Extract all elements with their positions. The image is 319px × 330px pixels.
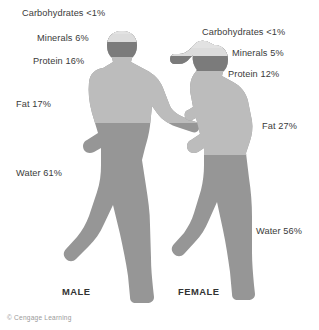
male-label-water: Water 61% [16,168,62,179]
female-label-fat: Fat 27% [262,121,297,132]
female-label-carbohydrates: Carbohydrates <1% [202,27,285,38]
female-label-minerals: Minerals 5% [232,48,284,59]
female-label-protein: Protein 12% [228,69,279,80]
female-label-water: Water 56% [256,226,302,237]
figure-caption-male: MALE [62,286,91,297]
copyright-credit: © Cengage Learning [7,314,72,321]
figure-caption-female: FEMALE [178,286,220,297]
female-band-carbohydrates [160,0,319,48]
male-label-carbohydrates: Carbohydrates <1% [22,8,105,19]
male-label-minerals: Minerals 6% [37,33,89,44]
male-label-fat: Fat 17% [16,99,51,110]
male-label-protein: Protein 16% [33,56,84,67]
